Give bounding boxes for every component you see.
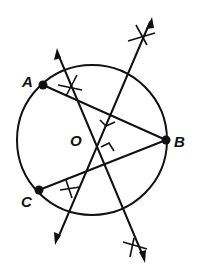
point-b [162, 136, 171, 145]
bisector-cb-arrow-top-icon [54, 48, 61, 60]
diagram-canvas: A B C O [0, 0, 198, 279]
point-a [39, 81, 48, 90]
label-a: A [21, 73, 33, 90]
point-c [35, 186, 44, 195]
label-c: C [21, 193, 33, 210]
label-o: O [70, 132, 82, 149]
segment-ab [43, 85, 166, 140]
bisector-ab-arrow-top-icon [146, 17, 154, 29]
bisector-cb-arrow-bottom-icon [139, 250, 146, 263]
segment-cb [39, 140, 166, 190]
right-angle-mark-cb [101, 143, 114, 151]
label-b: B [174, 133, 185, 150]
bisector-ab-line [58, 22, 150, 238]
